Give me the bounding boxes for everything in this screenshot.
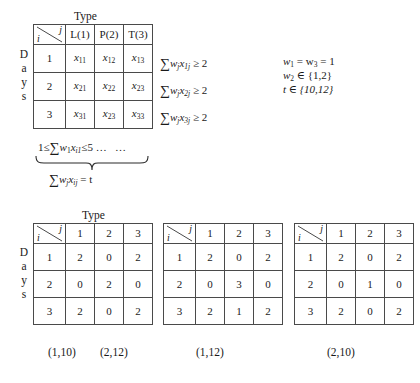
- value-cell: 2: [327, 244, 356, 271]
- row-header-1: 2: [164, 271, 196, 298]
- figure-canvas: Type D a y s j i L(1) P(2) T(3) 1 x11 x1…: [0, 0, 420, 383]
- value-cell: 0: [124, 271, 153, 298]
- solution-table-3: j i 1 2 3 1 2 0 2 2 0 1 0 3 2 0 2: [294, 223, 414, 325]
- table-row: 2 0 2 0: [34, 271, 153, 298]
- value-cell: 2: [196, 244, 225, 271]
- value-cell: 0: [254, 271, 283, 298]
- days-letter-y: y: [18, 273, 30, 287]
- table-row: 2 0 1 0: [295, 271, 414, 298]
- corner-row-symbol: i: [37, 233, 40, 243]
- value-cell: 0: [356, 298, 385, 325]
- table-header-row: j i 1 2 3: [295, 224, 414, 244]
- cell-sub: 23: [137, 84, 145, 93]
- cell-sub: 13: [137, 56, 145, 65]
- x-sub: 1j: [184, 62, 190, 71]
- corner-row-symbol: i: [167, 233, 170, 243]
- corner-row-symbol: i: [37, 34, 40, 44]
- row-constraint-3: ∑wjx3j ≥ 2: [160, 110, 207, 126]
- cell-x23b: x23: [95, 101, 124, 129]
- value-cell: 0: [95, 244, 124, 271]
- relation: ≥ 2: [193, 111, 207, 123]
- corner-col-symbol: j: [59, 25, 62, 35]
- days-letter-s: s: [18, 89, 30, 103]
- days-letter-a: a: [18, 61, 30, 75]
- table-header-row: j i 1 2 3: [34, 224, 153, 244]
- value-cell: 0: [225, 244, 254, 271]
- col-header-2: T(3): [124, 25, 153, 45]
- row-header-0: 1: [164, 244, 196, 271]
- value-cell: 0: [327, 271, 356, 298]
- value-cell: 2: [66, 244, 95, 271]
- solution-table-1-type-label: Type: [82, 209, 105, 221]
- value-cell: 1: [225, 298, 254, 325]
- cell-x31: x31: [66, 101, 95, 129]
- days-letter-d: D: [18, 47, 30, 61]
- cell-x11: x11: [66, 45, 95, 73]
- cell-x23: x23: [124, 73, 153, 101]
- sigma-icon: ∑: [50, 140, 60, 155]
- mid: ∈ {1,2}: [294, 69, 332, 81]
- sigma-icon: ∑: [49, 172, 59, 187]
- row-header-2: 3: [34, 298, 66, 325]
- top-table-type-label: Type: [74, 10, 97, 22]
- top-table-days-label: D a y s: [18, 47, 30, 103]
- value-cell: 2: [385, 298, 414, 325]
- corner-col-symbol: j: [189, 224, 192, 234]
- top-decision-variable-table: j i L(1) P(2) T(3) 1 x11 x12 x13 2 x21 x…: [33, 24, 153, 129]
- table-row: 3 2 1 2: [164, 298, 283, 325]
- col-header-1: 2: [225, 224, 254, 244]
- cell-x21: x21: [66, 73, 95, 101]
- col-header-0: 1: [327, 224, 356, 244]
- days-letter-s: s: [18, 287, 30, 301]
- days-letter-y: y: [18, 75, 30, 89]
- cell-x33: x33: [124, 101, 153, 129]
- col-header-1: P(2): [95, 25, 124, 45]
- relation: ≥ 2: [193, 57, 207, 69]
- table-row: 1 2 0 2: [34, 244, 153, 271]
- value-cell: 2: [124, 298, 153, 325]
- value-cell: 2: [196, 298, 225, 325]
- col-header-0: L(1): [66, 25, 95, 45]
- row-header-1: 2: [34, 271, 66, 298]
- cell-sub: 33: [137, 112, 145, 121]
- column-constraint: 1≤∑w1xi1≤5 … …: [38, 140, 126, 156]
- cell-x22: x22: [95, 73, 124, 101]
- col-header-0: 1: [196, 224, 225, 244]
- col-header-0: 1: [66, 224, 95, 244]
- parameter-note-t: t ∈ {10,12}: [283, 83, 333, 97]
- solution-table-1-caption-a: (1,10): [48, 346, 76, 358]
- cell-sub: 23: [108, 112, 116, 121]
- value-cell: 2: [66, 298, 95, 325]
- w-var: w: [60, 141, 67, 153]
- x-sub: 3j: [184, 116, 190, 125]
- dots-1: …: [96, 141, 107, 153]
- sigma-icon: ∑: [160, 56, 170, 71]
- col-header-2: 3: [254, 224, 283, 244]
- row-header-0: 1: [34, 244, 66, 271]
- value-cell: 2: [327, 298, 356, 325]
- col-header-1: 2: [356, 224, 385, 244]
- cell-sub: 11: [79, 56, 86, 65]
- table-row: 1 2 0 2: [164, 244, 283, 271]
- curly-brace-icon: [34, 155, 150, 171]
- cell-sub: 31: [79, 112, 87, 121]
- value-cell: 0: [196, 271, 225, 298]
- relation: ≥ 2: [193, 84, 207, 96]
- table-header-row: j i L(1) P(2) T(3): [34, 25, 153, 45]
- x-sub: 2j: [184, 89, 190, 98]
- row-header-2: 3: [164, 298, 196, 325]
- x-sub: ij: [73, 178, 77, 187]
- table-row: 2 x21 x22 x23: [34, 73, 153, 101]
- solution-table-1-caption-b: (2,12): [100, 346, 128, 358]
- cell-x12: x12: [95, 45, 124, 73]
- cell-sub: 22: [108, 84, 116, 93]
- solution-table-1: j i 1 2 3 1 2 0 2 2 0 2 0 3 2 0 2: [33, 223, 153, 325]
- value-cell: 2: [385, 244, 414, 271]
- row-header-2: 3: [295, 298, 327, 325]
- corner-index-cell: j i: [34, 25, 66, 45]
- corner-index-cell: j i: [164, 224, 196, 244]
- cell-sub: 21: [79, 84, 87, 93]
- col-header-2: 3: [124, 224, 153, 244]
- tail: ≤5: [81, 141, 93, 153]
- days-letter-a: a: [18, 259, 30, 273]
